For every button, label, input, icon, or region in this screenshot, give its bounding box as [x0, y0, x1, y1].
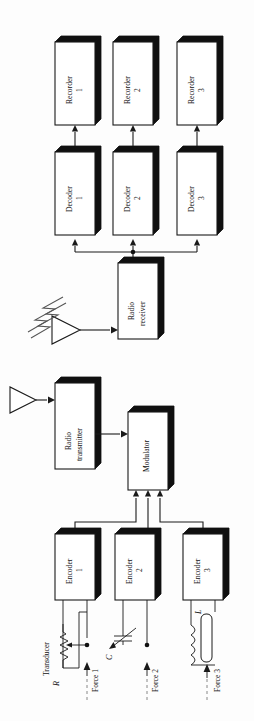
radio-receiver-label-line2: receiver: [138, 301, 147, 326]
encoder-2-index: 2: [135, 568, 144, 572]
force-2-label: Force 2: [151, 669, 160, 692]
receive-antenna: [52, 316, 80, 344]
encoder-2-box[interactable]: Encoder 2: [115, 528, 161, 600]
decoder-3-box[interactable]: Decoder 3: [177, 146, 223, 235]
transducer-2-symbol: C: [105, 654, 114, 660]
recorder-1-label: Recorder: [65, 76, 74, 104]
decoder-2-box[interactable]: Decoder 2: [113, 146, 159, 235]
encoder-1-label: Encoder: [65, 558, 74, 584]
decoder-1-index: 1: [75, 196, 84, 200]
transducer-3-symbol: L: [194, 609, 203, 615]
radio-receiver-label-line1: Radio: [127, 302, 136, 320]
decoder-3-label: Decoder: [187, 186, 196, 212]
recorder-2-index: 2: [133, 88, 142, 92]
decoder-1-box[interactable]: Decoder 1: [55, 146, 101, 235]
diagram-canvas: Recorder 1 Recorder 2 Recorder 3 Decoder…: [0, 0, 254, 721]
inductor-core: [201, 614, 212, 662]
transducer-1-node: [85, 643, 90, 648]
transducer-1-resistor-circuit: Transducer R Force 1: [42, 600, 100, 700]
decoder-2-index: 2: [133, 196, 142, 200]
modulator-box[interactable]: Modulator: [128, 406, 174, 490]
receive-antenna-feed: [80, 327, 118, 334]
recorder-1-box[interactable]: Recorder 1: [55, 36, 101, 125]
recorder-1-index: 1: [75, 88, 84, 92]
transducer-2-node: [145, 643, 150, 648]
force-3-label: Force 3: [213, 669, 222, 692]
transmit-antenna-feed: [36, 397, 55, 404]
encoder-3-box[interactable]: Encoder 3: [183, 528, 229, 600]
transmit-antenna: [10, 387, 36, 413]
transducer-2-capacitor-circuit: C Force 2: [105, 600, 160, 700]
radio-transmitter-label-line2: transmitter: [75, 428, 84, 461]
encoder-2-label: Encoder: [125, 558, 134, 584]
force-1-label: Force 1: [91, 669, 100, 692]
recorder-3-index: 3: [197, 88, 206, 92]
decoder-3-index: 3: [197, 196, 206, 200]
modulator-label: Modulator: [142, 439, 151, 472]
bus-junction-dot: [131, 250, 136, 255]
transducer-3-inductor-circuit: L Force 3: [191, 600, 222, 700]
decoder-1-label: Decoder: [65, 186, 74, 212]
radio-transmitter-label-line1: Radio: [64, 432, 73, 450]
encoder-1-index: 1: [75, 568, 84, 572]
decoder-to-recorder-arrows: [72, 125, 200, 146]
encoder-1-box[interactable]: Encoder 1: [55, 528, 101, 600]
transducer-1-symbol: R: [52, 681, 61, 687]
recorder-3-label: Recorder: [187, 76, 196, 104]
recorder-2-box[interactable]: Recorder 2: [113, 36, 159, 125]
transducer-1-caption: Transducer: [42, 642, 51, 676]
radio-transmitter-box[interactable]: Radio transmitter: [55, 377, 101, 469]
encoder-3-label: Encoder: [193, 558, 202, 584]
recorder-3-box[interactable]: Recorder 3: [177, 36, 223, 125]
encoder-3-index: 3: [203, 568, 212, 572]
radio-receiver-box[interactable]: Radio receiver: [118, 257, 164, 339]
encoder-bus-to-modulator: [75, 490, 203, 534]
recorder-2-label: Recorder: [123, 76, 132, 104]
decoder-2-label: Decoder: [123, 186, 132, 212]
